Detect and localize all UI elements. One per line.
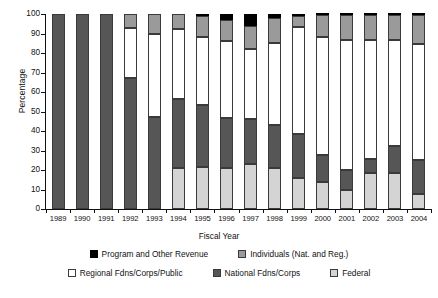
bar-segment[interactable]	[172, 14, 185, 29]
bar-segment[interactable]	[244, 119, 257, 164]
bar-1990[interactable]	[76, 14, 89, 209]
bar-segment[interactable]	[220, 118, 233, 168]
bar-segment[interactable]	[124, 14, 137, 28]
x-tick-mark	[359, 209, 360, 213]
bar-segment[interactable]	[172, 168, 185, 209]
bar-2003[interactable]	[388, 14, 401, 209]
x-tick-mark	[166, 209, 167, 213]
bar-segment[interactable]	[172, 29, 185, 99]
legend-label: Regional Fdns/Corps/Public	[80, 268, 183, 278]
bar-segment[interactable]	[220, 20, 233, 41]
x-tick-mark	[239, 209, 240, 213]
bar-segment[interactable]	[388, 40, 401, 145]
bar-1994[interactable]	[172, 14, 185, 209]
bar-segment[interactable]	[244, 14, 257, 26]
bar-segment[interactable]	[100, 14, 113, 209]
y-tick-label: 70	[14, 69, 40, 77]
bar-segment[interactable]	[196, 14, 209, 16]
bar-segment[interactable]	[316, 155, 329, 181]
bar-segment[interactable]	[220, 14, 233, 20]
bar-segment[interactable]	[412, 44, 425, 160]
bar-segment[interactable]	[340, 170, 353, 190]
x-axis-ticks: 1989199019911992199319941995199619971998…	[46, 209, 431, 229]
x-tick-mark	[335, 209, 336, 213]
bar-segment[interactable]	[340, 190, 353, 209]
bar-1993[interactable]	[148, 14, 161, 209]
bar-segment[interactable]	[196, 167, 209, 209]
bar-segment[interactable]	[340, 15, 353, 40]
legend-entry[interactable]: Federal	[330, 268, 370, 278]
bar-segment[interactable]	[244, 26, 257, 49]
bar-segment[interactable]	[364, 13, 377, 15]
bar-1995[interactable]	[196, 14, 209, 209]
bar-2001[interactable]	[340, 14, 353, 209]
x-tick-mark	[407, 209, 408, 213]
bar-segment[interactable]	[268, 18, 281, 43]
y-tick-label: 0	[14, 205, 40, 213]
bar-1992[interactable]	[124, 14, 137, 209]
bar-segment[interactable]	[340, 40, 353, 170]
bar-segment[interactable]	[148, 117, 161, 209]
bar-segment[interactable]	[316, 182, 329, 209]
bar-1991[interactable]	[100, 14, 113, 209]
bar-segment[interactable]	[292, 14, 305, 16]
bar-segment[interactable]	[364, 40, 377, 159]
bar-segment[interactable]	[364, 159, 377, 173]
bar-segment[interactable]	[364, 15, 377, 40]
bar-segment[interactable]	[412, 13, 425, 15]
bar-1997[interactable]	[244, 14, 257, 209]
bar-segment[interactable]	[268, 14, 281, 18]
bar-segment[interactable]	[412, 160, 425, 194]
chart-legend: Program and Other RevenueIndividuals (Na…	[0, 247, 438, 295]
bar-segment[interactable]	[364, 173, 377, 209]
bar-segment[interactable]	[220, 41, 233, 118]
x-tick-label: 1989	[45, 214, 71, 223]
legend-label: National Fdns/Corps	[225, 268, 301, 278]
bar-segment[interactable]	[340, 13, 353, 15]
bar-segment[interactable]	[244, 164, 257, 209]
bar-1999[interactable]	[292, 14, 305, 209]
bar-1989[interactable]	[52, 14, 65, 209]
bar-2000[interactable]	[316, 14, 329, 209]
bar-segment[interactable]	[316, 15, 329, 37]
legend-entry[interactable]: Program and Other Revenue	[90, 249, 209, 259]
bar-segment[interactable]	[52, 14, 65, 209]
bar-2002[interactable]	[364, 14, 377, 209]
bar-segment[interactable]	[124, 78, 137, 209]
bar-1996[interactable]	[220, 14, 233, 209]
bar-segment[interactable]	[220, 168, 233, 209]
bar-segment[interactable]	[292, 134, 305, 178]
bar-segment[interactable]	[388, 13, 401, 15]
bar-segment[interactable]	[268, 43, 281, 125]
bar-segment[interactable]	[196, 16, 209, 37]
legend-entry[interactable]: Individuals (Nat. and Reg.)	[238, 249, 348, 259]
legend-entry[interactable]: Regional Fdns/Corps/Public	[68, 268, 183, 278]
bar-segment[interactable]	[316, 37, 329, 155]
bar-segment[interactable]	[412, 194, 425, 209]
bar-segment[interactable]	[292, 27, 305, 134]
x-tick-label: 1991	[93, 214, 119, 223]
bar-segment[interactable]	[244, 49, 257, 119]
bar-segment[interactable]	[196, 37, 209, 104]
bar-segment[interactable]	[388, 173, 401, 209]
bar-1998[interactable]	[268, 14, 281, 209]
bar-segment[interactable]	[268, 125, 281, 168]
bar-segment[interactable]	[388, 15, 401, 40]
x-tick-label: 2003	[382, 214, 408, 223]
x-tick-mark	[190, 209, 191, 213]
bar-segment[interactable]	[124, 28, 137, 79]
bar-segment[interactable]	[196, 105, 209, 167]
bar-segment[interactable]	[292, 16, 305, 27]
legend-entry[interactable]: National Fdns/Corps	[213, 268, 301, 278]
bar-segment[interactable]	[292, 178, 305, 209]
bar-segment[interactable]	[148, 34, 161, 118]
bar-2004[interactable]	[412, 14, 425, 209]
bar-segment[interactable]	[316, 13, 329, 15]
bar-segment[interactable]	[76, 14, 89, 209]
bar-segment[interactable]	[268, 168, 281, 209]
bar-segment[interactable]	[412, 15, 425, 44]
x-tick-label: 2000	[310, 214, 336, 223]
bar-segment[interactable]	[148, 14, 161, 34]
bar-segment[interactable]	[388, 146, 401, 173]
bar-segment[interactable]	[172, 99, 185, 168]
